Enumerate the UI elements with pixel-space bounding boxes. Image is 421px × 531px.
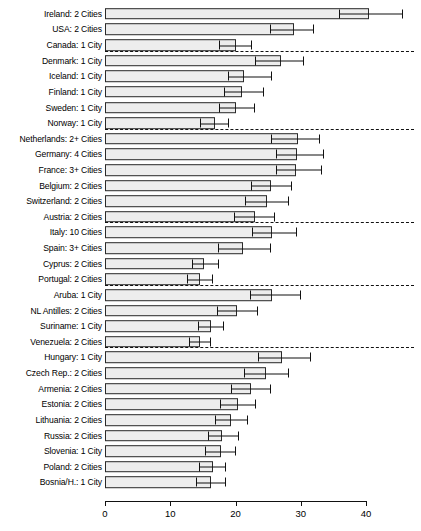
error-bar-cap-high [291,181,292,190]
error-bar-cap-high [270,384,271,393]
bar [105,133,298,145]
error-bar-cap-low [198,322,199,331]
chart-row: Suriname: 1 City [0,318,421,334]
chart-row: Estonia: 2 Cities [0,397,421,413]
chart-row: Cyprus: 2 Cities [0,256,421,272]
error-bar-cap-high [238,431,239,440]
bar [105,86,242,98]
error-bar [219,41,252,50]
x-axis-tick-label: 0 [102,508,107,519]
error-bar [187,275,213,284]
error-bar-cap-low [205,447,206,456]
error-bar-cap-high [210,337,211,346]
group-separator [105,129,414,130]
error-bar [255,56,304,65]
chart-row: Germany: 4 Cities [0,147,421,163]
error-bar [198,322,223,331]
error-bar-cap-low [231,384,232,393]
error-bar-cap-high [296,228,297,237]
error-bar-line [198,326,223,327]
error-bar [250,290,301,299]
error-bar-cap-high [218,259,219,268]
chart-row: Ireland: 2 Cities [0,6,421,22]
error-bar-line [245,201,289,202]
error-bar-cap-high [235,447,236,456]
error-bar-line [244,373,289,374]
error-bar [251,181,293,190]
error-bar-cap-low [339,9,340,18]
bar [105,336,200,348]
error-bar-cap-high [310,353,311,362]
x-axis-tick-label: 20 [230,508,241,519]
chart-row: Sweden: 1 City [0,100,421,116]
error-bar-cap-low [251,181,252,190]
error-bar-cap-high [223,322,224,331]
x-axis-tick [301,501,302,506]
chart-row: Finland: 1 City [0,84,421,100]
error-bar-cap-low [270,25,271,34]
bar [105,399,238,411]
error-bar-line [217,311,258,312]
group-separator [105,347,414,348]
bar [105,367,266,379]
error-bar-line [200,123,229,124]
chart-row: Switzerland: 2 Cities [0,193,421,209]
bar-category-label: Cyprus: 2 Cities [43,259,102,268]
bar-category-label: Italy: 10 Cities [50,228,102,237]
bar-category-label: Spain: 3+ Cities [43,244,102,253]
bar-category-label: Netherlands: 2+ Cities [19,134,102,143]
x-axis-tick [170,501,171,506]
bar [105,70,244,82]
group-separator [105,51,414,52]
bar-category-label: Russia: 2 Cities [44,431,102,440]
bar-category-label: Austria: 2 Cities [44,212,102,221]
bar-category-label: Aruba: 1 City [54,290,102,299]
bar-category-label: Poland: 2 Cities [43,462,102,471]
chart-row: Armenia: 2 Cities [0,381,421,397]
error-bar-cap-low [244,369,245,378]
error-bar [276,165,322,174]
error-bar-line [270,29,314,30]
bar [105,430,222,442]
error-bar-cap-high [300,290,301,299]
error-bar [217,306,258,315]
bar [105,414,231,426]
error-bar-line [220,404,257,405]
bar-category-label: Germany: 4 Cities [35,150,102,159]
error-bar-cap-low [199,462,200,471]
error-bar-cap-low [245,197,246,206]
chart-row: France: 3+ Cities [0,162,421,178]
bar [105,289,272,301]
error-bar-cap-low [218,244,219,253]
bar [105,211,255,223]
x-axis-tick [236,501,237,506]
x-axis-tick-label: 40 [361,508,372,519]
error-bar-cap-low [258,353,259,362]
error-bar [219,103,255,112]
error-bar-cap-high [321,165,322,174]
error-bar-line [196,482,226,483]
error-bar-cap-low [189,337,190,346]
error-bar-cap-high [270,244,271,253]
error-bar-cap-low [234,212,235,221]
error-bar-cap-high [313,25,314,34]
bar-category-label: Estonia: 2 Cities [42,400,102,409]
error-bar-cap-low [187,275,188,284]
chart-row: USA: 2 Cities [0,22,421,38]
error-bar-line [234,217,274,218]
error-bar-cap-high [255,400,256,409]
x-axis-tick-label: 10 [165,508,176,519]
bar-category-label: Switzerland: 2 Cities [26,197,102,206]
chart-row: Czech Rep.: 2 Cities [0,365,421,381]
error-bar [208,431,239,440]
error-bar [245,197,289,206]
x-axis-tick-label: 30 [295,508,306,519]
chart-row: Russia: 2 Cities [0,428,421,444]
error-bar [199,462,226,471]
error-bar-cap-low [271,134,272,143]
bar [105,274,200,286]
bar [105,8,369,20]
error-bar [271,134,320,143]
chart-row: Slovenia: 1 City [0,443,421,459]
bar-category-label: Bosnia/H.: 1 City [40,478,102,487]
